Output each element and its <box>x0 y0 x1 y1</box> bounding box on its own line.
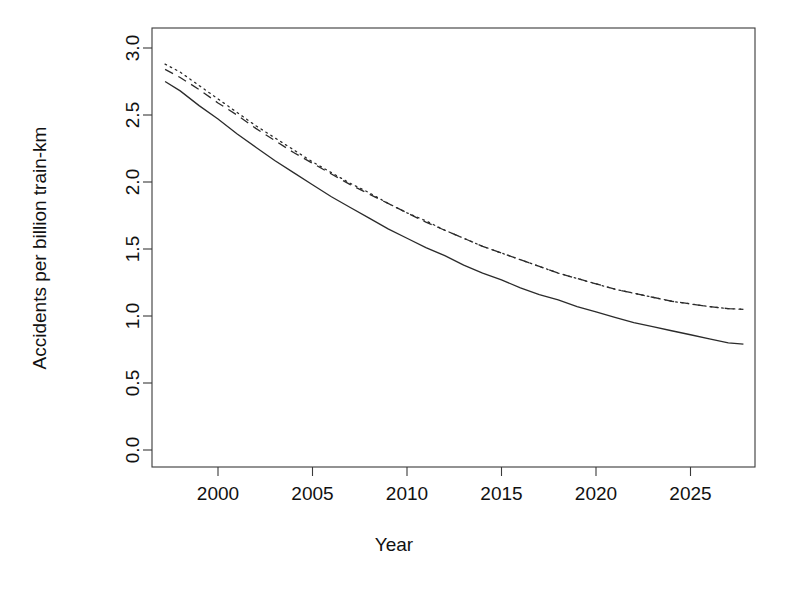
x-tick-label: 2000 <box>197 483 239 504</box>
y-tick-label: 0.0 <box>122 437 143 463</box>
x-tick-label: 2015 <box>480 483 522 504</box>
y-tick-label: 1.0 <box>122 303 143 329</box>
y-tick-label: 1.5 <box>122 236 143 262</box>
y-tick-label: 2.0 <box>122 169 143 195</box>
x-tick-label: 2025 <box>669 483 711 504</box>
y-axis-title: Accidents per billion train-km <box>29 127 50 370</box>
x-tick-label: 2005 <box>291 483 333 504</box>
x-tick-label: 2020 <box>575 483 617 504</box>
x-axis-title: Year <box>375 534 414 555</box>
y-tick-label: 0.5 <box>122 370 143 396</box>
x-tick-label: 2010 <box>386 483 428 504</box>
y-tick-label: 2.5 <box>122 102 143 128</box>
accidents-per-train-km-chart: 0.00.51.01.52.02.53.0 200020052010201520… <box>0 0 786 590</box>
y-tick-label: 3.0 <box>122 35 143 61</box>
